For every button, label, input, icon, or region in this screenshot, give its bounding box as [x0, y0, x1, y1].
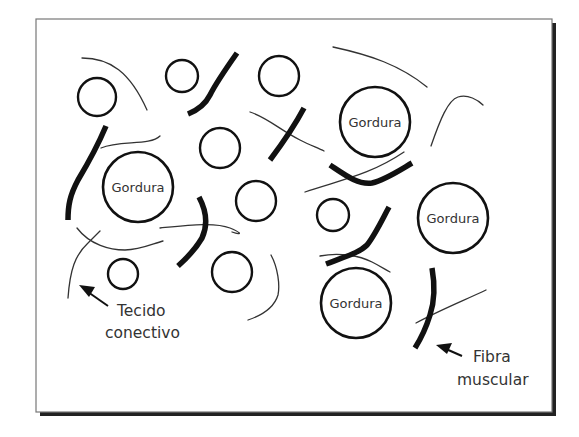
fat-cell-label: Gordura: [427, 211, 480, 226]
label-muscle-fiber-line1: Fibra: [473, 348, 511, 366]
fat-cell-label: Gordura: [112, 180, 165, 195]
fat-cell-label: Gordura: [330, 296, 383, 311]
fat-cell-label: Gordura: [349, 115, 402, 130]
label-connective-tissue-line1: Tecido: [116, 302, 166, 320]
meat-tissue-diagram: Gordura Gordura Gordura Gordura Tecido c…: [0, 0, 579, 437]
label-muscle-fiber-line2: muscular: [457, 371, 529, 389]
label-connective-tissue-line2: conectivo: [105, 324, 180, 342]
